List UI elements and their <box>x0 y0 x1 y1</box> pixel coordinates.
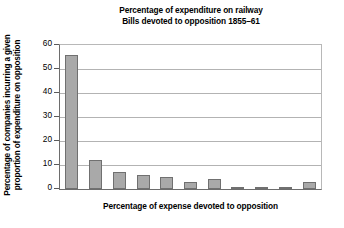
y-tick-label-50: 50 <box>43 62 52 73</box>
bar-series <box>60 45 321 189</box>
bar-4 <box>137 175 150 189</box>
bar-7 <box>208 179 221 189</box>
x-axis-label: Percentage of expense devoted to opposit… <box>59 201 322 211</box>
y-tick-label-40: 40 <box>43 86 52 97</box>
bar-1 <box>65 55 78 189</box>
bar-6 <box>184 182 197 189</box>
bar-10 <box>279 187 292 189</box>
bar-9 <box>255 187 268 189</box>
bar-11 <box>303 182 316 189</box>
chart-title: Percentage of expenditure on railway Bil… <box>60 5 322 27</box>
y-axis-ticks: 0102030405060 <box>0 44 59 190</box>
bar-8 <box>231 187 244 189</box>
chart-title-line-2: Bills devoted to opposition 1855–61 <box>60 16 322 27</box>
bar-3 <box>113 172 126 189</box>
bar-5 <box>160 177 173 189</box>
plot-area <box>59 44 322 190</box>
y-tick-label-10: 10 <box>43 158 52 169</box>
y-tick-label-20: 20 <box>43 134 52 145</box>
bar-chart-figure: Percentage of expenditure on railway Bil… <box>0 0 344 228</box>
y-tick-label-30: 30 <box>43 110 52 121</box>
chart-title-line-1: Percentage of expenditure on railway <box>60 5 322 16</box>
y-tick-label-0: 0 <box>47 182 52 193</box>
bar-2 <box>89 160 102 189</box>
y-tick-label-60: 60 <box>43 38 52 49</box>
